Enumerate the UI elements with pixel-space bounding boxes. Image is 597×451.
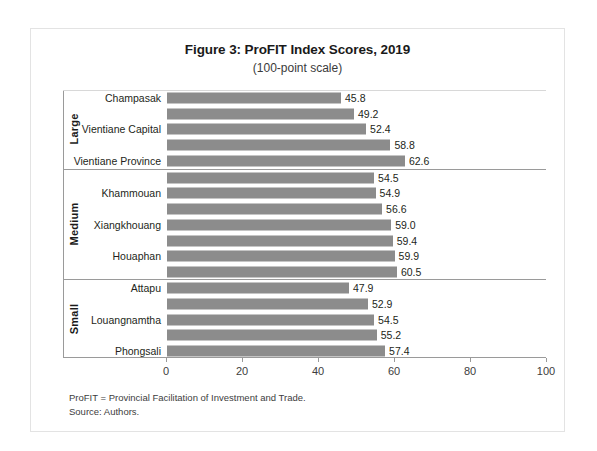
bar-value-label: 54.9: [380, 187, 400, 199]
category-label: Louangnamtha: [91, 314, 161, 326]
category-label-row: [63, 233, 166, 249]
bar-value-label: 58.8: [394, 139, 414, 151]
bar-value-label: 54.5: [378, 172, 398, 184]
bar[interactable]: [167, 188, 376, 199]
bar-row: 58.8: [166, 137, 546, 153]
group-label-block-small: SmallAttapuLouangnamthaPhongsali: [63, 279, 166, 358]
category-label-row: Champasak: [63, 90, 166, 106]
bar-value-label: 45.8: [345, 92, 365, 104]
group-bars-block-small: 47.952.954.555.257.4: [166, 279, 546, 358]
category-label: Champasak: [105, 92, 161, 104]
category-label-row: Vientiane Province: [63, 153, 166, 169]
bar-value-label: 59.4: [397, 235, 417, 247]
group-bars-block-large: 45.849.252.458.862.6: [166, 90, 546, 169]
category-label-column: LargeChampasakVientiane CapitalVientiane…: [63, 90, 166, 358]
bar[interactable]: [167, 346, 385, 357]
x-axis-tick: [166, 358, 167, 362]
figure-container: Figure 3: ProFIT Index Scores, 2019 (100…: [30, 28, 565, 432]
bar-value-label: 56.6: [386, 203, 406, 215]
category-label-row: Attapu: [63, 280, 166, 296]
x-axis-tick: [318, 358, 319, 362]
bar[interactable]: [167, 204, 382, 215]
category-label-row: [63, 296, 166, 312]
chart-title: Figure 3: ProFIT Index Scores, 2019: [31, 41, 564, 58]
bar-row: 55.2: [166, 327, 546, 343]
bar[interactable]: [167, 108, 354, 119]
bar[interactable]: [167, 267, 397, 278]
category-label-row: [63, 264, 166, 280]
bar-row: 54.5: [166, 312, 546, 328]
bar-row: 60.5: [166, 264, 546, 280]
bar-value-label: 49.2: [358, 108, 378, 120]
bar-value-label: 57.4: [389, 345, 409, 357]
bar[interactable]: [167, 298, 368, 309]
category-label: Khammouan: [101, 187, 161, 199]
bar-row: 52.9: [166, 296, 546, 312]
bar[interactable]: [167, 219, 391, 230]
x-axis-tick-label: 0: [163, 365, 169, 377]
note-source: Source: Authors.: [69, 405, 539, 419]
x-axis-tick-label: 40: [312, 365, 324, 377]
bar[interactable]: [167, 330, 377, 341]
bar-value-label: 60.5: [401, 266, 421, 278]
bar-row: 47.9: [166, 280, 546, 296]
figure-notes: ProFIT = Provincial Facilitation of Inve…: [69, 391, 539, 418]
category-label: Vientiane Province: [74, 155, 161, 167]
category-label-row: [63, 327, 166, 343]
bar-value-label: 55.2: [381, 329, 401, 341]
bar[interactable]: [167, 124, 366, 135]
bar-value-label: 52.9: [372, 298, 392, 310]
bar[interactable]: [167, 140, 390, 151]
category-label: Xiangkhouang: [94, 219, 161, 231]
bar-row: 59.4: [166, 233, 546, 249]
x-axis-tick: [394, 358, 395, 362]
bar[interactable]: [167, 172, 374, 183]
category-label-row: [63, 170, 166, 186]
category-label-row: Houaphan: [63, 249, 166, 265]
category-label-row: [63, 106, 166, 122]
bar-row: 57.4: [166, 343, 546, 359]
group-bars-block-medium: 54.554.956.659.059.459.960.5: [166, 169, 546, 279]
x-axis-tick-label: 80: [464, 365, 476, 377]
group-label-block-large: LargeChampasakVientiane CapitalVientiane…: [63, 90, 166, 169]
plot-area: LargeChampasakVientiane CapitalVientiane…: [63, 90, 546, 358]
chart-subtitle: (100-point scale): [31, 60, 564, 77]
bar[interactable]: [167, 251, 395, 262]
bar[interactable]: [167, 92, 341, 103]
category-label-row: [63, 201, 166, 217]
category-label: Phongsali: [115, 345, 161, 357]
x-axis-tick: [242, 358, 243, 362]
bar-row: 49.2: [166, 106, 546, 122]
bar[interactable]: [167, 235, 393, 246]
category-label: Vientiane Capital: [82, 123, 161, 135]
x-axis-tick-label: 100: [537, 365, 555, 377]
bar-row: 56.6: [166, 201, 546, 217]
category-label: Houaphan: [113, 250, 161, 262]
category-label-row: Phongsali: [63, 343, 166, 359]
bar-value-label: 54.5: [378, 314, 398, 326]
bar-row: 62.6: [166, 153, 546, 169]
bar-value-label: 59.9: [399, 250, 419, 262]
bars-column: 45.849.252.458.862.654.554.956.659.059.4…: [166, 90, 546, 358]
category-label-row: Louangnamtha: [63, 312, 166, 328]
group-label-block-medium: MediumKhammouanXiangkhouangHouaphan: [63, 169, 166, 279]
x-axis-tick-label: 20: [236, 365, 248, 377]
bar[interactable]: [167, 283, 349, 294]
category-label-row: Khammouan: [63, 186, 166, 202]
x-axis-tick: [470, 358, 471, 362]
x-axis: 020406080100: [166, 358, 597, 388]
bar[interactable]: [167, 314, 374, 325]
bar-value-label: 47.9: [353, 282, 373, 294]
bar-value-label: 59.0: [395, 219, 415, 231]
category-label-row: Vientiane Capital: [63, 122, 166, 138]
bar-row: 45.8: [166, 90, 546, 106]
note-definition: ProFIT = Provincial Facilitation of Inve…: [69, 391, 539, 405]
category-label-row: [63, 137, 166, 153]
bar-row: 59.9: [166, 249, 546, 265]
category-label: Attapu: [131, 282, 161, 294]
category-label-row: Xiangkhouang: [63, 217, 166, 233]
bar[interactable]: [167, 155, 405, 166]
x-axis-tick-label: 60: [388, 365, 400, 377]
title-block: Figure 3: ProFIT Index Scores, 2019 (100…: [31, 41, 564, 77]
bar-row: 54.5: [166, 170, 546, 186]
